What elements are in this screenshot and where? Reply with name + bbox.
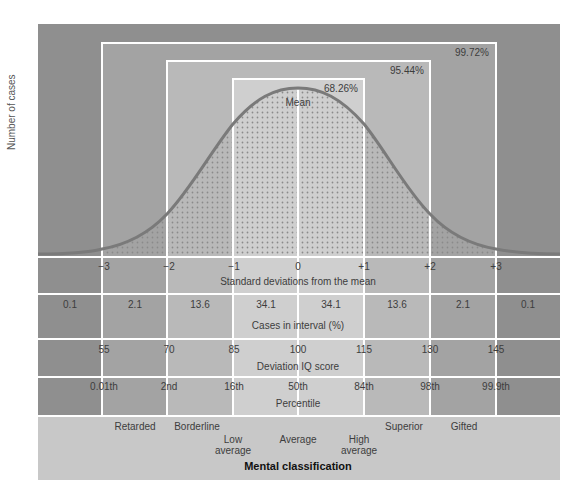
- x-axis-label: Standard deviations from the mean: [220, 276, 376, 287]
- label-99-72: 99.72%: [455, 47, 489, 58]
- percentile-value: 98th: [420, 381, 439, 392]
- sd-tick: 0: [295, 261, 301, 272]
- percentile-value: 16th: [224, 381, 243, 392]
- label-95-44: 95.44%: [390, 65, 424, 76]
- cases-value: 2.1: [456, 299, 470, 310]
- class-high-average: High average: [337, 434, 381, 456]
- cases-value: 13.6: [190, 299, 209, 310]
- sd-tick: +1: [358, 261, 369, 272]
- cases-value: 0.1: [521, 299, 535, 310]
- class-gifted: Gifted: [451, 421, 478, 432]
- iq-value: 115: [356, 344, 372, 355]
- sd-tick: −1: [228, 261, 239, 272]
- percentile-value: 2nd: [161, 381, 178, 392]
- iq-value: 70: [163, 344, 174, 355]
- cases-value: 34.1: [256, 299, 275, 310]
- cases-value: 34.1: [321, 299, 340, 310]
- iq-value: 100: [290, 344, 307, 355]
- class-retarded: Retarded: [114, 421, 155, 432]
- percentile-value: 0.01th: [90, 381, 118, 392]
- cases-value: 13.6: [387, 299, 406, 310]
- classification-title: Mental classification: [244, 460, 352, 472]
- iq-value: 85: [228, 344, 239, 355]
- percentile-row-title: Percentile: [276, 398, 320, 409]
- iq-value: 130: [422, 344, 439, 355]
- mean-label: Mean: [285, 97, 310, 108]
- percentile-value: 50th: [288, 381, 307, 392]
- class-superior: Superior: [385, 421, 423, 432]
- percentile-value: 84th: [354, 381, 373, 392]
- iq-row-title: Deviation IQ score: [257, 361, 339, 372]
- cases-value: 2.1: [128, 299, 142, 310]
- class-average: Average: [279, 434, 316, 445]
- class-borderline: Borderline: [174, 421, 220, 432]
- percentile-value: 99.9th: [482, 381, 510, 392]
- cases-row-title: Cases in interval (%): [252, 320, 344, 331]
- sd-tick: +2: [424, 261, 435, 272]
- iq-value: 55: [98, 344, 109, 355]
- class-low-average: Low average: [211, 434, 255, 456]
- iq-value: 145: [488, 344, 505, 355]
- sd-tick: −2: [163, 261, 174, 272]
- label-68-26: 68.26%: [324, 83, 358, 94]
- sd-tick: +3: [490, 261, 501, 272]
- cases-value: 0.1: [63, 299, 77, 310]
- sd-tick: −3: [98, 261, 109, 272]
